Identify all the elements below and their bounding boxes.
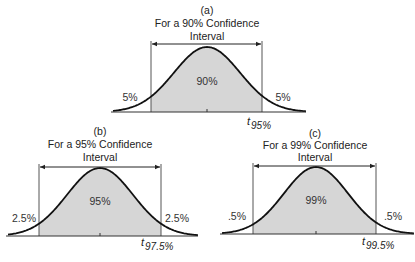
panel-c-center-percent: 99% [305,194,326,206]
panel-c-title-interval: Interval [298,151,332,163]
panel-c-right-tail-percent: .5% [384,210,402,222]
panel-a-title-interval: Interval [190,30,224,42]
confidence-interval-diagram: (a) For a 90% Confidence Interval 90% 5%… [0,0,415,262]
panel-a-title: For a 90% Confidence [155,17,260,29]
panel-b-letter: (b) [94,125,107,137]
panel-b-title: For a 95% Confidence [48,138,153,150]
panel-b-t-critical-label: t97.5% [141,236,174,252]
panel-a-letter: (a) [201,4,214,16]
panel-b-center-percent: 95% [89,195,110,207]
panel-b-left-tail-percent: 2.5% [12,212,36,224]
panel-b-right-tail-percent: 2.5% [165,212,189,224]
panel-c: (c) For a 99% Confidence Interval 99% .5… [220,127,414,251]
panel-a-t-critical-label: t95% [247,115,271,131]
panel-b: (b) For a 95% Confidence Interval 95% 2.… [6,125,198,252]
panel-c-t-critical-label: t99.5% [362,235,395,251]
panel-a-center-percent: 90% [196,75,217,87]
panel-a: (a) For a 90% Confidence Interval 90% 5%… [111,4,306,131]
panel-a-right-tail-percent: 5% [275,91,290,103]
panel-c-title: For a 99% Confidence [263,139,368,151]
panel-c-letter: (c) [309,127,321,139]
panel-b-title-interval: Interval [83,151,117,163]
panel-c-left-tail-percent: .5% [228,210,246,222]
panel-a-left-tail-percent: 5% [122,91,137,103]
